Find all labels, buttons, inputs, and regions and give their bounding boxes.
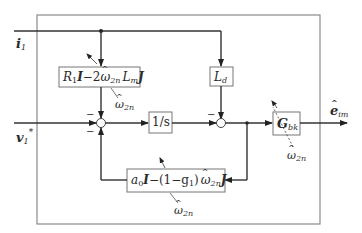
omega-sub: 2n	[124, 103, 134, 112]
gbk-omega-param: ω2n	[287, 150, 306, 163]
r1-block-label: R1I−2ω2nLmJ	[63, 71, 144, 85]
feedback-omega-param: ω2n	[174, 205, 193, 218]
v1-sup: *	[29, 127, 34, 137]
omega-sub: 2n	[110, 76, 120, 85]
l-sub: d	[222, 76, 227, 85]
omega-sym: ω	[287, 150, 296, 161]
l-sym: L	[214, 70, 222, 84]
omega-sym: ω	[174, 205, 183, 216]
feedback-block-label: a0I−(1−g1)ω2nJ	[131, 174, 227, 188]
v1-sub: 1	[24, 137, 29, 146]
mid-expr: −(1−g	[149, 173, 189, 187]
sum2-top-sign: −	[207, 110, 215, 120]
v1-symbol: v	[16, 130, 24, 145]
sum1-top-sign: −	[86, 110, 94, 120]
omega-sym: ω	[201, 174, 211, 186]
input-i1-label: i1	[16, 37, 26, 52]
integrator-label: 1/s	[152, 116, 170, 128]
omega-sym: ω	[100, 71, 110, 83]
r1-omega-param: ω2n	[115, 99, 134, 112]
omega-sub: 2n	[183, 209, 193, 218]
g-sub: bk	[288, 123, 298, 132]
input-v1star-label: v1*	[16, 128, 33, 146]
omega-sub: 2n	[211, 179, 221, 188]
l-sub: m	[130, 76, 138, 85]
minus-two: −2	[83, 70, 101, 84]
summing-junction-2	[217, 119, 226, 128]
omega-sym: ω	[115, 99, 124, 110]
j-sym: J	[138, 70, 144, 84]
j-sym: J	[221, 173, 227, 187]
block-diagram: i1 v1* eim R1I−2ω2nLmJ ω2n Ld 1/s Gbk ω2…	[0, 0, 362, 233]
e-sub: im	[338, 110, 348, 119]
close-paren: )	[194, 173, 199, 187]
r-sym: R	[63, 70, 72, 84]
g-sym: G	[277, 116, 288, 131]
omega-sub: 2n	[296, 154, 306, 163]
summing-junction-1	[97, 119, 106, 128]
gbk-block-label: Gbk	[277, 117, 298, 132]
sum1-left-sign: −	[86, 127, 94, 137]
i1-sub: 1	[21, 43, 26, 52]
ld-block-label: Ld	[214, 71, 227, 85]
output-e-im-label: eim	[330, 104, 348, 119]
e-symbol: e	[330, 104, 338, 117]
